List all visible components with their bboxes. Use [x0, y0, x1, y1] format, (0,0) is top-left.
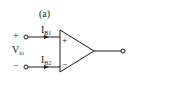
plus-sign: +	[13, 31, 19, 41]
current-bottom-label: IB2	[41, 55, 51, 68]
panel-label: (a)	[39, 9, 50, 19]
minus-sign: −	[13, 61, 19, 71]
minus-input-terminal	[24, 65, 28, 69]
circuit-drawing	[0, 0, 180, 104]
opamp-minus-sign: −	[62, 59, 67, 69]
voltage-label: Vio	[12, 45, 24, 58]
opamp-plus-sign: +	[62, 35, 67, 45]
plus-input-terminal	[24, 35, 28, 39]
current-top-label: IB1	[41, 25, 51, 38]
output-terminal	[121, 49, 125, 53]
